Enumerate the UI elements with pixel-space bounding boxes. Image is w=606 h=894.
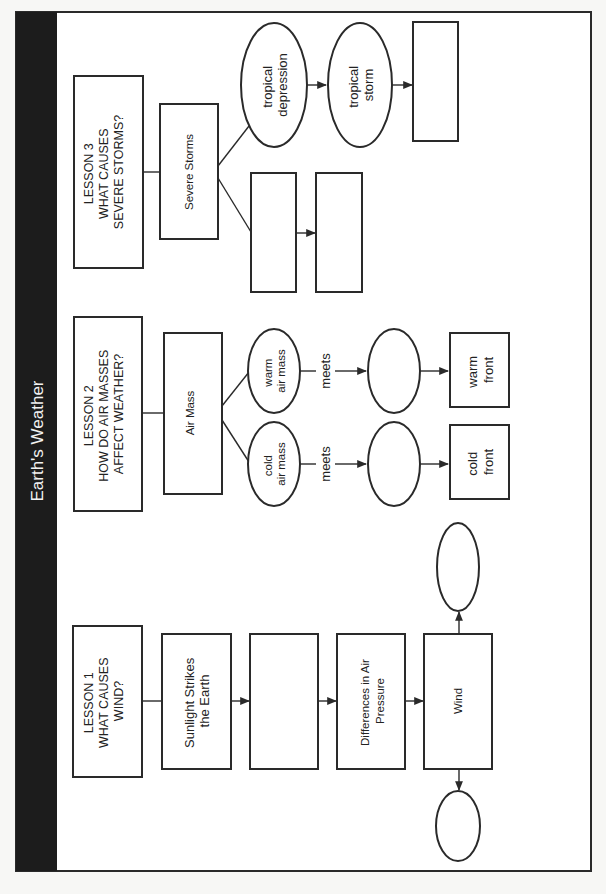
wind-oval-bottom[interactable]	[436, 791, 480, 861]
page-title: Earth's Weather	[28, 380, 47, 501]
label-line: warm	[465, 356, 480, 389]
warm-front-label: warm front	[465, 352, 496, 388]
lesson2-heading-line2: HOW DO AIR MASSES	[97, 350, 111, 482]
lesson1-heading-line2: WHAT CAUSES	[97, 657, 111, 748]
label-line: Sunlight Strikes	[182, 657, 197, 748]
label-line: the Earth	[197, 675, 212, 728]
wind-label: Wind	[452, 688, 464, 714]
label-line: tropical	[346, 66, 361, 108]
wind-oval-top[interactable]	[437, 523, 479, 611]
tropical-storm-label: tropical storm	[346, 62, 376, 108]
blank-after-storm-box[interactable]	[413, 22, 458, 141]
cold-blank-oval[interactable]	[368, 422, 420, 506]
cold-front-label: cold front	[465, 448, 496, 475]
severe-storms-label: Severe Storms	[183, 134, 195, 210]
lesson1-heading-line3: WIND?	[112, 681, 126, 721]
label-line: Differences in Air	[359, 659, 371, 746]
label-line: front	[481, 357, 496, 383]
label-line: Pressure	[374, 678, 386, 724]
label-line: air mass	[275, 349, 287, 393]
blank-branch-box-2[interactable]	[316, 173, 362, 292]
meets-label-cold: meets	[318, 446, 333, 482]
label-line: storm	[361, 69, 376, 102]
cold-air-mass-oval	[248, 422, 300, 506]
lesson1-heading-line1: LESSON 1	[82, 672, 96, 733]
blank-cause-box[interactable]	[250, 634, 318, 769]
label-line: cold	[262, 455, 274, 476]
label-line: front	[481, 449, 496, 475]
warm-blank-oval[interactable]	[368, 329, 420, 413]
blank-branch-box-1[interactable]	[251, 173, 296, 292]
lesson3-heading-line1: LESSON 3	[82, 143, 96, 204]
meets-label-warm: meets	[318, 353, 333, 389]
differences-box	[337, 634, 405, 769]
label-line: depression	[275, 53, 290, 117]
lesson2-heading-line1: LESSON 2	[82, 385, 96, 446]
lesson3-heading-line3: SEVERE STORMS?	[112, 115, 126, 229]
lesson3-heading-line2: WHAT CAUSES	[97, 128, 111, 219]
lesson2-heading-line3: AFFECT WEATHER?	[112, 354, 126, 474]
label-line: tropical	[260, 66, 275, 108]
label-line: cold	[465, 452, 480, 476]
concept-map: Earth's Weather LESSON 3 WHAT CAUSES SEV…	[0, 0, 606, 894]
label-line: air mass	[275, 442, 287, 486]
label-line: warm	[262, 359, 274, 388]
tropical-depression-label: tropical depression	[260, 53, 290, 117]
warm-air-mass-oval	[248, 329, 300, 413]
warm-air-mass-label: warm air mass	[262, 349, 287, 393]
air-mass-label: Air Mass	[184, 390, 196, 435]
